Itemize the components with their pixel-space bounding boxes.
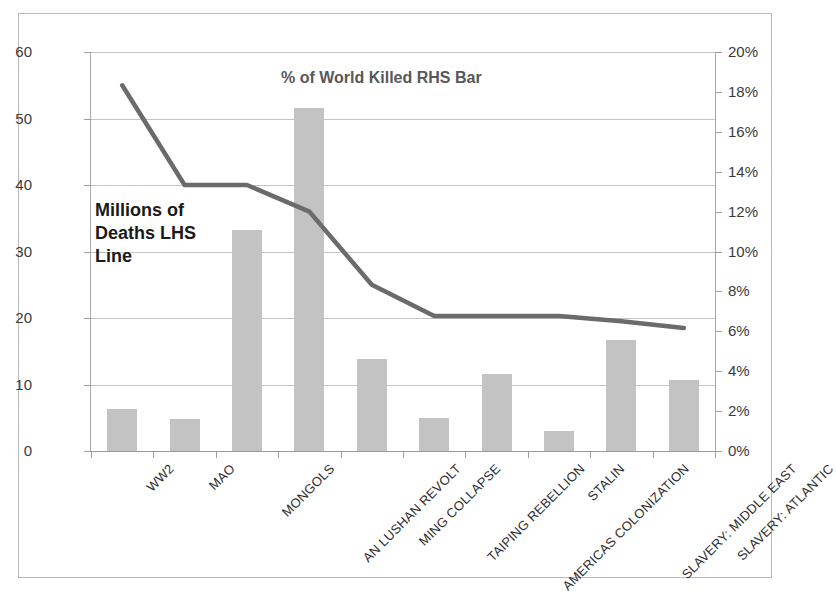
category-label: STALIN [584, 461, 627, 504]
left-axis-tick [84, 451, 91, 452]
right-axis-tick-label: 0% [728, 443, 750, 458]
right-axis-tick-label: 12% [728, 204, 758, 219]
right-axis-tick [715, 52, 722, 53]
right-axis-tick-label: 4% [728, 363, 750, 378]
x-axis-tick [153, 451, 154, 458]
right-axis-tick [715, 252, 722, 253]
chart-frame: WW2MAOMONGOLSAN LUSHAN REVOLTMING COLLAP… [18, 13, 772, 578]
right-axis-tick-label: 8% [728, 283, 750, 298]
right-axis-tick [715, 291, 722, 292]
category-labels: WW2MAOMONGOLSAN LUSHAN REVOLTMING COLLAP… [91, 461, 715, 591]
x-axis-tick [590, 451, 591, 458]
right-axis-tick [715, 212, 722, 213]
left-axis-tick-label: 30 [15, 244, 32, 259]
x-axis-tick [653, 451, 654, 458]
left-axis-tick [84, 385, 91, 386]
right-axis-tick [715, 411, 722, 412]
right-axis-tick-label: 18% [728, 84, 758, 99]
right-axis-tick [715, 132, 722, 133]
right-axis-tick [715, 331, 722, 332]
left-axis-tick-label: 10 [15, 377, 32, 392]
x-axis-tick [465, 451, 466, 458]
x-axis-tick [341, 451, 342, 458]
x-axis-tick [278, 451, 279, 458]
right-axis-tick-label: 6% [728, 323, 750, 338]
x-axis-ticks [91, 451, 715, 459]
x-axis-tick [91, 451, 92, 458]
left-axis-tick [84, 119, 91, 120]
category-label: WW2 [144, 461, 177, 494]
x-axis-tick [403, 451, 404, 458]
x-axis-tick [216, 451, 217, 458]
right-axis-tick-label: 2% [728, 403, 750, 418]
left-axis-tick-label: 20 [15, 310, 32, 325]
right-axis-tick [715, 451, 722, 452]
right-axis-tick [715, 92, 722, 93]
right-axis-tick-label: 10% [728, 244, 758, 259]
category-label: AMERICAS COLONIZATION [559, 461, 691, 593]
right-axis-tick [715, 371, 722, 372]
left-axis-tick [84, 318, 91, 319]
category-label: MONGOLS [279, 461, 338, 520]
left-axis-tick-label: 60 [15, 44, 32, 59]
category-label: TAIPING REBELLION [485, 461, 588, 564]
x-axis-tick [528, 451, 529, 458]
right-axis-tick-label: 14% [728, 164, 758, 179]
line-series-annotation: Millions of Deaths LHS Line [95, 199, 245, 268]
left-axis-tick-label: 0 [24, 443, 32, 458]
left-axis-tick [84, 52, 91, 53]
left-axis-tick-label: 40 [15, 177, 32, 192]
left-axis-tick [84, 185, 91, 186]
x-axis-tick [715, 451, 716, 458]
annotation-line-3: Line [95, 245, 245, 268]
right-axis-tick-label: 16% [728, 124, 758, 139]
annotation-line-2: Deaths LHS [95, 222, 245, 245]
left-axis-tick-label: 50 [15, 111, 32, 126]
chart-title: % of World Killed RHS Bar [281, 69, 482, 87]
category-label: MAO [205, 461, 237, 493]
right-axis-tick [715, 172, 722, 173]
left-axis-tick [84, 252, 91, 253]
annotation-line-1: Millions of [95, 199, 245, 222]
right-axis-tick-label: 20% [728, 44, 758, 59]
